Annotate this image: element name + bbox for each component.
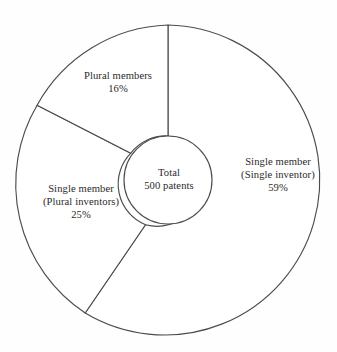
slice-label-plural-members: Plural members 16% [66, 70, 170, 96]
donut-chart: Plural members 16% Single member (Single… [0, 0, 337, 352]
slice-label-line-1: Single member [226, 156, 330, 169]
slice-label-value: 59% [226, 182, 330, 195]
slice-label-line-1: Plural members [66, 70, 170, 83]
center-label-line-2: 500 patents [128, 180, 210, 193]
slice-label-line-1: Single member [26, 183, 136, 196]
slice-label-value: 25% [26, 209, 136, 222]
donut-center-label: Total 500 patents [128, 167, 210, 193]
slice-label-line-2: (Single inventor) [226, 169, 330, 182]
slice-label-line-2: (Plural inventors) [26, 196, 136, 209]
center-label-line-1: Total [128, 167, 210, 180]
slice-label-single-inventor: Single member (Single inventor) 59% [226, 156, 330, 195]
slice-label-plural-inventors: Single member (Plural inventors) 25% [26, 183, 136, 222]
slice-label-value: 16% [66, 83, 170, 96]
